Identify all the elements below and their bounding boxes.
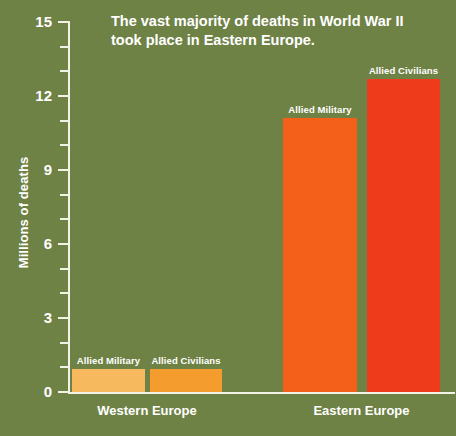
y-axis-tick-minor: [60, 218, 68, 220]
y-axis-label: 3: [0, 310, 52, 325]
bar[interactable]: [72, 369, 145, 392]
y-axis-label: 15: [0, 14, 52, 29]
y-axis-tick-minor: [60, 144, 68, 146]
y-axis-tick-minor: [60, 46, 68, 48]
y-axis-tick-major: [58, 243, 68, 245]
bar[interactable]: [150, 369, 222, 392]
y-axis-title: Millions of deaths: [16, 133, 31, 293]
bar-value-label: Allied Civilians: [130, 355, 242, 366]
x-axis-group-label: Eastern Europe: [283, 403, 440, 418]
y-axis-label: 9: [0, 162, 52, 177]
bar-value-label: Allied Civilians: [347, 65, 456, 76]
bar-value-label: Allied Military: [263, 104, 377, 115]
y-axis-tick-minor: [60, 268, 68, 270]
bar[interactable]: [283, 118, 357, 392]
y-axis-tick-minor: [60, 120, 68, 122]
chart-title-line-2: took place in Eastern Europe.: [111, 31, 431, 50]
bar[interactable]: [367, 79, 440, 392]
y-axis-tick-minor: [60, 194, 68, 196]
y-axis-tick-major: [58, 391, 68, 393]
y-axis-tick-minor: [60, 342, 68, 344]
y-axis-line: [68, 21, 70, 394]
chart-title: The vast majority of deaths in World War…: [111, 12, 431, 51]
y-axis-tick-minor: [60, 70, 68, 72]
y-axis-tick-minor: [60, 366, 68, 368]
y-axis-tick-major: [58, 169, 68, 171]
x-axis-line: [68, 392, 455, 394]
bar-chart: The vast majority of deaths in World War…: [0, 0, 456, 436]
chart-title-line-1: The vast majority of deaths in World War…: [111, 12, 431, 31]
y-axis-tick-major: [58, 317, 68, 319]
x-axis-group-label: Western Europe: [72, 403, 222, 418]
y-axis-label: 6: [0, 236, 52, 251]
y-axis-tick-major: [58, 95, 68, 97]
y-axis-label: 12: [0, 88, 52, 103]
y-axis-label: 0: [0, 384, 52, 399]
y-axis-tick-major: [58, 21, 68, 23]
y-axis-tick-minor: [60, 292, 68, 294]
